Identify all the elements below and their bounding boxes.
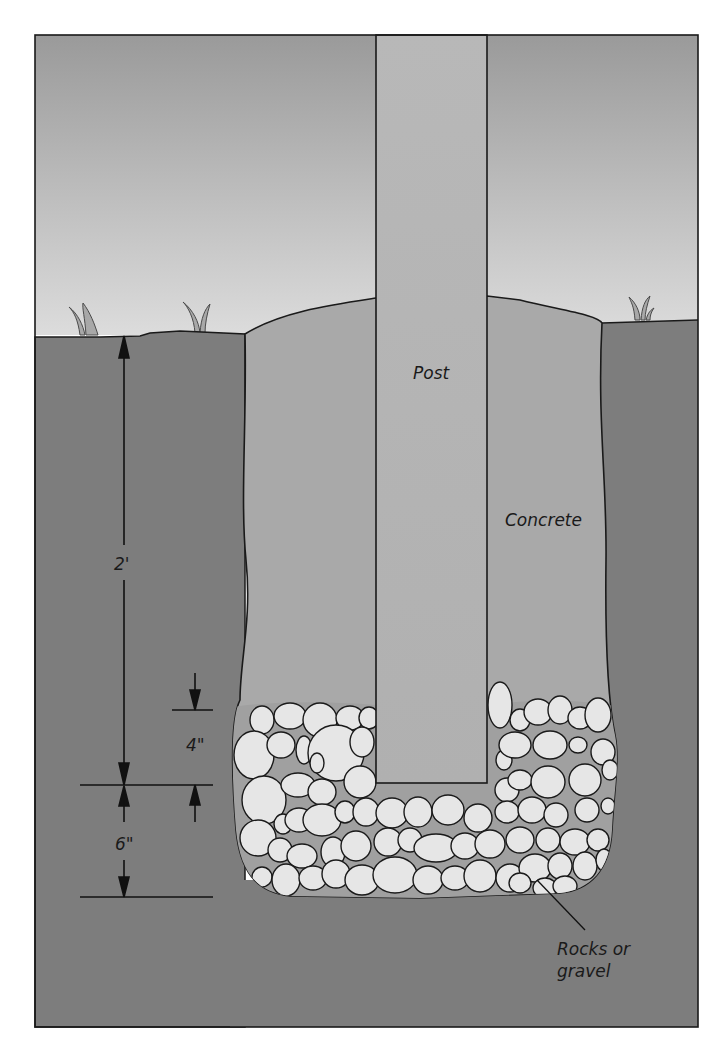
rock <box>531 766 565 798</box>
rock <box>536 828 560 852</box>
rock <box>518 797 546 823</box>
post <box>376 35 487 783</box>
rock <box>308 779 336 805</box>
hole-depth-label: 2' <box>113 553 131 576</box>
rock <box>250 706 274 734</box>
rocks-label-line2: gravel <box>557 960 630 982</box>
sky <box>35 35 698 335</box>
rock <box>506 827 534 853</box>
rock <box>475 830 505 858</box>
rock <box>274 703 306 729</box>
post-footing-diagram <box>0 0 725 1040</box>
rock <box>488 682 512 728</box>
rock <box>234 731 274 779</box>
gravel-depth-label: 6" <box>114 833 135 856</box>
post-label: Post <box>413 365 449 382</box>
rock <box>341 831 371 861</box>
rock <box>353 798 379 826</box>
post-embed-label: 4" <box>186 737 205 754</box>
rock <box>575 798 599 822</box>
rock <box>404 797 432 827</box>
rock <box>464 804 492 832</box>
rock <box>602 760 618 780</box>
rocks-label-line1: Rocks or <box>557 938 630 960</box>
rock <box>509 873 531 893</box>
rock <box>432 795 464 825</box>
rock <box>344 766 376 798</box>
concrete-label: Concrete <box>505 512 582 529</box>
rock <box>272 864 300 896</box>
rock <box>573 852 597 880</box>
rock <box>544 803 568 827</box>
rock <box>569 764 601 796</box>
rock <box>287 844 317 868</box>
rock <box>601 798 615 814</box>
rock <box>585 698 611 732</box>
rock <box>267 732 295 758</box>
rock <box>508 770 532 790</box>
ground-soil <box>35 331 245 1027</box>
rock <box>310 753 324 773</box>
rock <box>560 829 590 855</box>
rock <box>350 727 374 757</box>
rock <box>495 801 519 823</box>
rock <box>548 853 572 879</box>
rocks-gravel-label: Rocks or gravel <box>557 938 630 982</box>
rock <box>499 732 531 758</box>
rock <box>569 737 587 753</box>
rock <box>376 798 408 828</box>
rock <box>373 857 417 893</box>
rock <box>464 860 496 892</box>
rock <box>587 829 609 851</box>
rock <box>533 731 567 759</box>
rock <box>335 801 355 823</box>
rock <box>413 866 443 894</box>
